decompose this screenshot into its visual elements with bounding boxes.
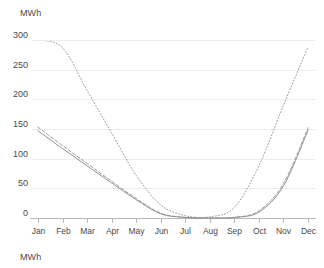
y-axis-tick-labels: 050100150200250300 <box>13 30 28 218</box>
series-line-solid <box>38 130 308 218</box>
x-axis-tick-label: Mar <box>80 226 95 236</box>
y-axis-tick-label: 100 <box>13 149 28 159</box>
x-axis-tick-label: Apr <box>106 226 119 236</box>
x-axis-tick-label: Oct <box>253 226 267 236</box>
y-axis-unit-label-bottom: MWh <box>20 252 41 262</box>
y-axis-tick-label: 200 <box>13 89 28 99</box>
gridlines <box>32 41 316 189</box>
series-line-dotted <box>38 40 308 218</box>
chart-container: MWh 050100150200250300 JanFebMarAprMayJu… <box>0 0 324 268</box>
x-axis-tick-labels: JanFebMarAprMayJunJulAugSepOctNovDec <box>32 226 317 236</box>
series-line-dashed <box>38 127 308 218</box>
x-axis-tick-label: Nov <box>276 226 292 236</box>
y-axis-tick-label: 150 <box>13 119 28 129</box>
x-axis-tick-label: Jun <box>155 226 169 236</box>
y-axis-tick-label: 250 <box>13 60 28 70</box>
y-axis-tick-label: 300 <box>13 30 28 40</box>
line-chart-plot: 050100150200250300 JanFebMarAprMayJunJul… <box>0 0 324 268</box>
x-axis-tick-label: Dec <box>301 226 317 236</box>
x-axis-tick-label: May <box>128 226 145 236</box>
x-axis-tick-label: Jan <box>32 226 46 236</box>
y-axis-tick-label: 50 <box>18 178 28 188</box>
x-axis-tick-label: Aug <box>203 226 218 236</box>
y-axis-tick-label: 0 <box>23 208 28 218</box>
x-axis-tick-label: Sep <box>227 226 242 236</box>
x-axis-tick-label: Jul <box>180 226 191 236</box>
x-axis-tick-label: Feb <box>56 226 71 236</box>
